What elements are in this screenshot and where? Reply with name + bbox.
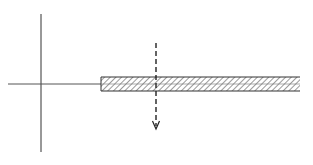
diagram-canvas: [0, 0, 313, 165]
hatched-bar: [101, 77, 300, 91]
diagram-svg: [0, 0, 313, 165]
